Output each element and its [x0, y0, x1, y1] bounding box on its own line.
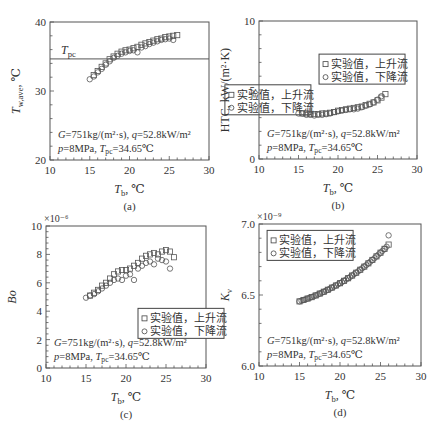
x-axis-label: Tb, ℃ — [323, 181, 353, 197]
legend-entry-label: 实验值，上升流 — [331, 57, 408, 70]
y-tick-label: 8 — [37, 248, 43, 260]
annotation-text: 34.65℃ — [118, 143, 154, 154]
label-symbol: Bo — [5, 290, 19, 303]
data-point-square — [123, 267, 128, 272]
x-tick-label: 25 — [164, 164, 176, 176]
legend: 实验值，上升流实验值，下降流 — [225, 85, 314, 115]
x-tick-label: 30 — [412, 163, 424, 175]
legend-entry-label: 实验值，下降流 — [150, 324, 227, 337]
label-unit: , ℃ — [336, 388, 355, 402]
x-tick-label: 10 — [254, 370, 266, 382]
y-tick-label: 10 — [244, 15, 256, 27]
condition-annotation: p=8MPa, Tpc=34.65℃ — [53, 351, 150, 364]
legend-entry-label: 实验值，下降流 — [237, 101, 314, 114]
y-tick-label: 6.5 — [241, 289, 255, 301]
condition-annotation: G=751kg/(m²·s), q=52.8kW/m² — [267, 335, 400, 347]
data-point-square — [171, 255, 176, 260]
x-tick-label: 30 — [204, 164, 216, 176]
y-tick-label: 0 — [250, 153, 256, 165]
legend: 实验值，上升流实验值，下降流 — [138, 308, 227, 338]
y-axis-label: Bo — [5, 290, 19, 303]
x-tick-label: 10 — [45, 164, 57, 176]
y-axis-label: Tw,ave, ℃ — [9, 68, 25, 114]
y-tick-label: 20 — [35, 154, 47, 166]
annotation-text: 8MPa, — [278, 349, 308, 360]
annotation-text: 52.8kW/m² — [139, 337, 187, 348]
annotation-text: 751kg/(m²·s), — [281, 128, 341, 140]
label-subscript: w,ave — [15, 87, 25, 107]
annotation-text: 8MPa, — [65, 351, 95, 362]
label-unit: , ℃ — [125, 182, 144, 196]
legend-entry-label: 实验值，上升流 — [279, 233, 356, 246]
series-downward-flow — [83, 256, 172, 300]
x-tick-label: 20 — [335, 370, 347, 382]
axis-multiplier: ×10⁻⁶ — [44, 213, 69, 224]
y-tick-label: 6.0 — [241, 360, 255, 372]
y-tick-label: 30 — [35, 85, 47, 97]
x-tick-label: 20 — [333, 163, 345, 175]
annotation-text: 8MPa, — [69, 143, 99, 154]
panel-caption: (b) — [332, 199, 345, 212]
y-tick-label: 5 — [250, 84, 256, 96]
panel-c-bo-chart: 10152025300246810×10⁻⁶Tb, ℃(c)Bo实验值，上升流实… — [5, 213, 227, 421]
x-tick-label: 30 — [201, 372, 213, 384]
data-point-square — [167, 249, 172, 254]
legend-entry-label: 实验值，上升流 — [237, 88, 314, 101]
axis-multiplier: ×10⁻⁹ — [257, 211, 282, 222]
x-tick-label: 25 — [375, 370, 387, 382]
annotation-text: 34.65℃ — [327, 349, 363, 360]
condition-annotation: G=751kg/(m²·s), q=52.8kW/m² — [54, 337, 187, 349]
annotation-text: 52.8kW/m² — [352, 335, 400, 346]
data-point-circle — [87, 77, 92, 82]
condition-annotation: G=751kg/(m²·s), q=52.8kW/m² — [58, 129, 191, 141]
data-point-circle — [167, 266, 172, 271]
annotation-text: 751kg/(m²·s), — [68, 337, 128, 349]
data-point-circle — [379, 94, 384, 99]
x-tick-label: 15 — [84, 164, 96, 176]
y-tick-label: 0 — [37, 362, 43, 374]
y-tick-label: 2 — [37, 334, 43, 346]
x-tick-label: 15 — [294, 370, 306, 382]
y-tick-label: 4 — [37, 305, 43, 317]
data-point-square — [151, 250, 156, 255]
annotation-text: 34.65℃ — [114, 351, 150, 362]
data-point-circle — [131, 277, 136, 282]
panel-a-tw-ave-chart: 1015202530203040Tb, ℃(a)Tw,ave, ℃Tpc实验值，… — [9, 16, 314, 213]
label-subscript: pc — [68, 49, 76, 59]
condition-annotation: p=8MPa, Tpc=34.65℃ — [57, 143, 154, 156]
label-unit: , ℃ — [334, 181, 353, 195]
data-point-square — [147, 252, 152, 257]
annotation-text: 52.8kW/m² — [352, 128, 400, 139]
data-point-square — [119, 267, 124, 272]
panel-caption: (d) — [334, 406, 347, 419]
y-tick-label: 6 — [37, 277, 43, 289]
data-point-square — [163, 248, 168, 253]
y-tick-label: 10 — [31, 220, 43, 232]
annotation-text: 8MPa, — [278, 142, 308, 153]
x-axis-label: Tb, ℃ — [111, 390, 141, 406]
x-tick-label: 20 — [121, 372, 133, 384]
condition-annotation: G=751kg/(m²·s), q=52.8kW/m² — [267, 128, 400, 140]
annotation-text: 52.8kW/m² — [143, 129, 191, 140]
panel-caption: (c) — [120, 408, 133, 421]
x-tick-label: 25 — [372, 163, 384, 175]
y-axis-label: Kv — [218, 288, 234, 302]
annotation-text: 751kg/(m²·s), — [72, 129, 132, 141]
x-tick-label: 25 — [161, 372, 173, 384]
condition-annotation: p=8MPa, Tpc=34.65℃ — [266, 142, 363, 155]
y-tick-label: 40 — [35, 16, 47, 28]
panel-d-kv-chart: 10152025306.06.57.0×10⁻⁹Tb, ℃(d)Kv实验值，上升… — [218, 211, 427, 419]
x-axis-label: Tb, ℃ — [325, 388, 355, 404]
y-axis-label: HTC, kW/(m²·K) — [218, 48, 232, 132]
annotation-text: 34.65℃ — [327, 142, 363, 153]
x-tick-label: 30 — [416, 370, 428, 382]
x-tick-label: 15 — [293, 163, 305, 175]
x-tick-label: 10 — [41, 372, 53, 384]
tpc-line-label: Tpc — [61, 43, 76, 59]
legend-entry-label: 实验值，上升流 — [150, 311, 227, 324]
y-tick-label: 7.0 — [241, 218, 255, 230]
panel-caption: (a) — [123, 200, 136, 213]
label-unit: , ℃ — [9, 68, 23, 87]
legend: 实验值，上升流实验值，下降流 — [319, 54, 408, 84]
data-point-circle — [386, 233, 391, 238]
